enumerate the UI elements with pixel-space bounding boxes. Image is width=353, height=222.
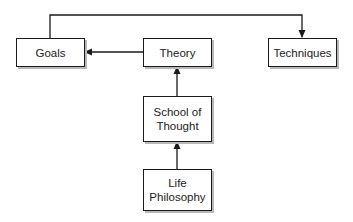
node-theory: Theory <box>143 38 212 67</box>
node-theory-label: Theory <box>160 46 196 60</box>
node-techniques: Techniques <box>268 38 337 67</box>
node-techniques-label: Techniques <box>273 46 331 60</box>
node-goals-label: Goals <box>35 46 65 60</box>
node-school-line1: School of <box>154 105 202 119</box>
node-life-philosophy: Life Philosophy <box>143 169 212 211</box>
node-goals: Goals <box>16 38 85 67</box>
edge-goals-to-techniques <box>50 15 302 38</box>
node-life-line2: Philosophy <box>149 190 205 204</box>
node-school-of-thought: School of Thought <box>143 96 212 142</box>
diagram-canvas: Goals Theory Techniques School of Though… <box>0 0 353 222</box>
node-life-line1: Life <box>168 176 187 190</box>
node-school-line2: Thought <box>156 119 198 133</box>
